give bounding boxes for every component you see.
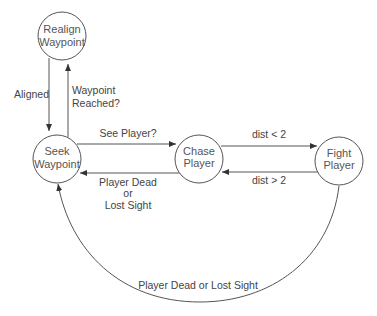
label-see-player: See Player?: [99, 127, 156, 139]
state-label: Chase: [183, 145, 215, 157]
state-fight-player: Fight Player: [315, 137, 363, 185]
state-diagram: Realign Waypoint Seek Waypoint Chase Pla…: [0, 0, 377, 316]
label-waypoint-reached: Reached?: [72, 97, 120, 109]
label-waypoint-reached: Waypoint: [72, 84, 115, 96]
label-fight-to-seek: Player Dead or Lost Sight: [138, 279, 258, 291]
state-label: Waypoint: [39, 36, 84, 48]
state-label: Player: [183, 157, 215, 169]
label-dist-less-2: dist < 2: [252, 128, 286, 140]
state-seek-waypoint: Seek Waypoint: [33, 135, 81, 183]
label-player-dead-or-lost-sight: or: [123, 187, 133, 199]
label-player-dead-or-lost-sight: Lost Sight: [105, 199, 152, 211]
state-label: Seek: [44, 145, 70, 157]
state-label: Player: [323, 159, 355, 171]
label-aligned: Aligned: [14, 88, 49, 100]
state-label: Fight: [327, 147, 351, 159]
state-chase-player: Chase Player: [175, 135, 223, 183]
state-realign-waypoint: Realign Waypoint: [38, 12, 86, 60]
label-dist-greater-2: dist > 2: [252, 174, 286, 186]
state-label: Realign: [43, 23, 80, 35]
state-label: Waypoint: [34, 158, 79, 170]
